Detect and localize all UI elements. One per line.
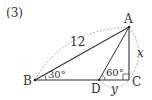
right-angle-marker <box>123 74 129 80</box>
vertex-d-dot <box>98 79 100 81</box>
vertex-label-a: A <box>123 12 133 26</box>
problem-number: (3) <box>6 6 23 20</box>
angle-label-b: 30° <box>48 69 66 80</box>
angle-arc-b <box>45 75 46 80</box>
vertex-label-c: C <box>132 75 141 89</box>
length-label-ab: 12 <box>70 35 85 49</box>
triangle-diagram: (3) A B C D 12 30° 60° x y <box>0 0 152 100</box>
length-label-dc: y <box>110 82 118 96</box>
angle-label-d: 60° <box>106 67 124 78</box>
angle-arc-d <box>102 75 105 80</box>
vertex-b-dot <box>34 79 37 82</box>
vertex-a-dot <box>128 26 131 29</box>
vertex-label-b: B <box>23 74 32 88</box>
vertex-label-d: D <box>91 82 101 96</box>
length-label-ac: x <box>137 46 144 60</box>
